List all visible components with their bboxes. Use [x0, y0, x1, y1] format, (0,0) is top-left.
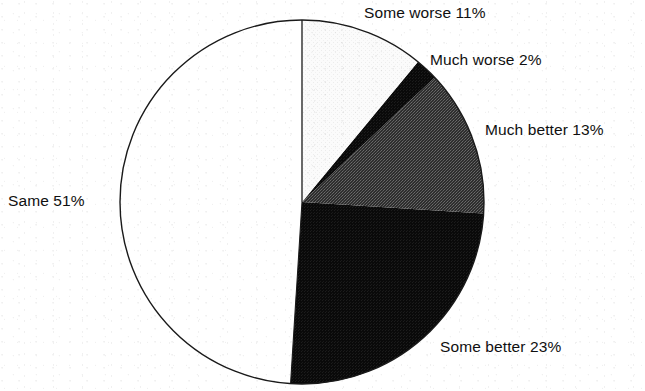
pie-label-some-worse: Some worse 11%	[364, 4, 486, 22]
pie-chart-figure: Some worse 11% Much worse 2% Much better…	[0, 0, 645, 391]
pie-slice-some-better	[291, 202, 484, 384]
pie-label-same: Same 51%	[8, 192, 85, 210]
pie-chart-canvas	[0, 0, 645, 391]
pie-label-some-better: Some better 23%	[440, 338, 561, 356]
pie-label-much-better: Much better 13%	[485, 121, 604, 139]
pie-label-much-worse: Much worse 2%	[430, 51, 542, 69]
